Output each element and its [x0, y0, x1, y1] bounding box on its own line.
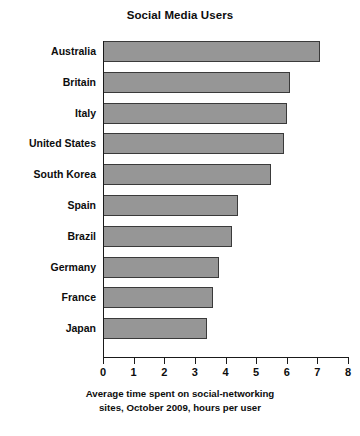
- bar: [103, 133, 284, 154]
- bar-row: France: [103, 287, 348, 318]
- bar: [103, 257, 219, 278]
- bar: [103, 72, 290, 93]
- x-axis-tick-label: 6: [275, 366, 299, 378]
- bar-category-label: Japan: [66, 318, 96, 339]
- bar: [103, 318, 207, 339]
- x-axis-tick: [226, 358, 227, 364]
- bar-row: United States: [103, 133, 348, 164]
- y-axis-line: [103, 41, 104, 358]
- chart-title: Social Media Users: [0, 9, 360, 21]
- bar-row: Britain: [103, 72, 348, 103]
- x-axis-tick-label: 2: [152, 366, 176, 378]
- x-axis-tick: [195, 358, 196, 364]
- bar-category-label: Germany: [50, 257, 96, 278]
- x-axis-tick: [256, 358, 257, 364]
- bar-row: Australia: [103, 41, 348, 72]
- bar-category-label: Italy: [75, 103, 96, 124]
- x-axis-caption-line-2: sites, October 2009, hours per user: [0, 401, 360, 415]
- bar-category-label: France: [62, 287, 96, 308]
- bar-category-label: Brazil: [67, 226, 96, 247]
- bar-row: Japan: [103, 318, 348, 349]
- social-media-users-bar-chart: Social Media Users AustraliaBritainItaly…: [0, 0, 360, 436]
- bar: [103, 103, 287, 124]
- x-axis-tick-label: 7: [305, 366, 329, 378]
- bar-row: Brazil: [103, 226, 348, 257]
- plot-area: AustraliaBritainItalyUnited StatesSouth …: [103, 41, 348, 357]
- x-axis-tick-label: 8: [336, 366, 360, 378]
- x-axis-tick-label: 0: [91, 366, 115, 378]
- bar-row: South Korea: [103, 164, 348, 195]
- x-axis-tick: [348, 358, 349, 364]
- bar: [103, 226, 232, 247]
- x-axis-tick: [164, 358, 165, 364]
- x-axis-tick-label: 3: [183, 366, 207, 378]
- bar: [103, 164, 271, 185]
- x-axis-tick: [287, 358, 288, 364]
- bar-category-label: United States: [29, 133, 96, 154]
- x-axis-caption-line-1: Average time spent on social-networking: [0, 387, 360, 401]
- bar-category-label: Australia: [51, 41, 96, 62]
- x-axis-tick: [317, 358, 318, 364]
- x-axis-tick: [134, 358, 135, 364]
- x-axis-tick-label: 1: [122, 366, 146, 378]
- bar-row: Spain: [103, 195, 348, 226]
- x-axis-tick-label: 4: [214, 366, 238, 378]
- x-axis-caption: Average time spent on social-networking …: [0, 387, 360, 414]
- x-axis-tick-label: 5: [244, 366, 268, 378]
- bar-category-label: Britain: [63, 72, 96, 93]
- bar-category-label: South Korea: [34, 164, 96, 185]
- bar: [103, 287, 213, 308]
- bar: [103, 41, 320, 62]
- bar-row: Italy: [103, 103, 348, 134]
- bar-category-label: Spain: [67, 195, 96, 216]
- bar-row: Germany: [103, 257, 348, 288]
- x-axis-tick: [103, 358, 104, 364]
- bar: [103, 195, 238, 216]
